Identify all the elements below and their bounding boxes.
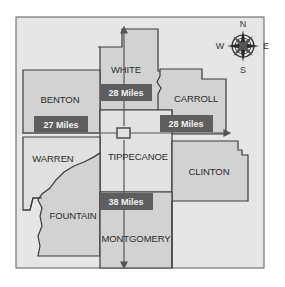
distance-label-east: 28 Miles: [168, 119, 203, 129]
distance-label-south: 38 Miles: [108, 197, 143, 207]
distance-label-west: 27 Miles: [43, 120, 78, 130]
county-label-clinton: CLINTON: [189, 166, 230, 177]
distance-label-north: 28 Miles: [108, 88, 143, 98]
county-label-carroll: CARROLL: [174, 93, 218, 104]
compass-w: W: [216, 41, 225, 51]
county-label-warren: WARREN: [32, 153, 74, 164]
center-marker: [117, 128, 130, 138]
compass-e: E: [263, 41, 269, 51]
county-label-white: WHITE: [111, 64, 141, 75]
county-label-fountain: FOUNTAIN: [49, 210, 96, 221]
compass-n: N: [240, 19, 247, 29]
compass-s: S: [240, 65, 246, 75]
county-distance-map: 28 Miles 27 Miles 28 Miles 38 Miles WHIT…: [0, 0, 285, 287]
county-label-montgomery: MONTGOMERY: [101, 233, 171, 244]
county-label-benton: BENTON: [41, 94, 80, 105]
county-label-tippecanoe: TIPPECANOE: [108, 151, 168, 162]
